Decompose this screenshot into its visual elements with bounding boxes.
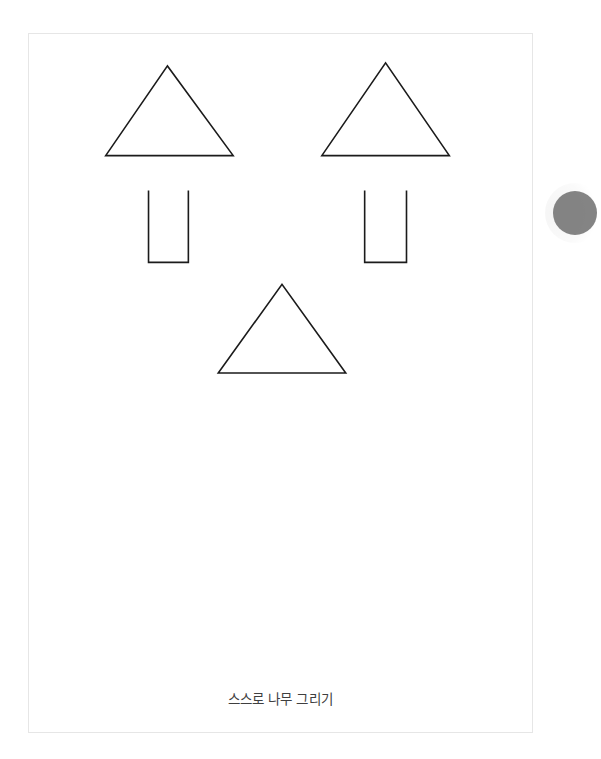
tree-drawing-canvas xyxy=(29,34,532,732)
tree-trunk-right xyxy=(365,191,407,263)
floating-round-button[interactable] xyxy=(553,191,597,235)
tree-trunk-left xyxy=(149,191,189,263)
document-page: 스스로 나무 그리기 xyxy=(28,33,533,733)
drawing-caption: 스스로 나무 그리기 xyxy=(29,691,532,709)
tree-canopy-left xyxy=(106,66,233,156)
tree-canopy-right xyxy=(322,63,449,156)
tree-canopy-bottom-center xyxy=(218,284,345,373)
